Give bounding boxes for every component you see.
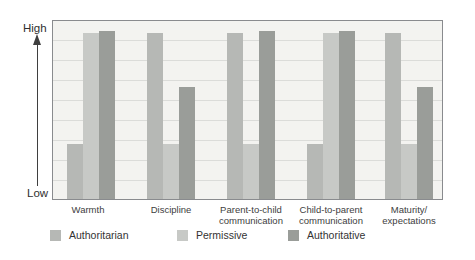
arrow-line bbox=[37, 42, 39, 186]
x-axis-category-labels: WarmthDisciplineParent-to-childcommunica… bbox=[0, 204, 475, 228]
bar-group-warmth bbox=[67, 21, 115, 199]
legend-item-permissive: Permissive bbox=[177, 227, 247, 243]
bar-permissive-maturity-expectations bbox=[401, 144, 417, 199]
legend-label-authoritarian: Authoritarian bbox=[69, 229, 129, 241]
y-axis-low-label: Low bbox=[27, 187, 48, 199]
arrow-up-icon bbox=[30, 34, 45, 186]
parenting-styles-bar-chart: High Low WarmthDisciplineParent-to-child… bbox=[0, 0, 475, 260]
bar-authoritarian-warmth bbox=[67, 144, 83, 199]
legend-swatch-authoritarian bbox=[50, 230, 61, 241]
bar-authoritative-child-to-parent-communication bbox=[339, 31, 355, 199]
bar-authoritative-warmth bbox=[99, 31, 115, 199]
bar-authoritative-parent-to-child-communication bbox=[259, 31, 275, 199]
bar-permissive-discipline bbox=[163, 144, 179, 199]
bar-permissive-warmth bbox=[83, 33, 99, 199]
bar-group-child-to-parent-communication bbox=[307, 21, 355, 199]
bar-permissive-child-to-parent-communication bbox=[323, 33, 339, 199]
legend-swatch-authoritative bbox=[288, 230, 299, 241]
bar-permissive-parent-to-child-communication bbox=[243, 144, 259, 199]
bar-authoritarian-maturity-expectations bbox=[385, 33, 401, 199]
bar-group-maturity-expectations bbox=[385, 21, 433, 199]
legend-item-authoritative: Authoritative bbox=[288, 227, 365, 243]
bar-authoritative-maturity-expectations bbox=[417, 87, 433, 199]
plot-area bbox=[52, 20, 443, 200]
bar-authoritative-discipline bbox=[179, 87, 195, 199]
legend-label-permissive: Permissive bbox=[196, 229, 247, 241]
bar-group-discipline bbox=[147, 21, 195, 199]
bar-authoritarian-parent-to-child-communication bbox=[227, 33, 243, 199]
x-label-maturity-expectations: Maturity/expectations bbox=[354, 204, 464, 226]
bar-group-parent-to-child-communication bbox=[227, 21, 275, 199]
bar-authoritarian-discipline bbox=[147, 33, 163, 199]
y-axis-high-label: High bbox=[23, 22, 47, 34]
legend-label-authoritative: Authoritative bbox=[307, 229, 365, 241]
legend: Authoritarian Permissive Authoritative bbox=[0, 227, 475, 245]
legend-item-authoritarian: Authoritarian bbox=[50, 227, 129, 243]
bar-authoritarian-child-to-parent-communication bbox=[307, 144, 323, 199]
legend-swatch-permissive bbox=[177, 230, 188, 241]
